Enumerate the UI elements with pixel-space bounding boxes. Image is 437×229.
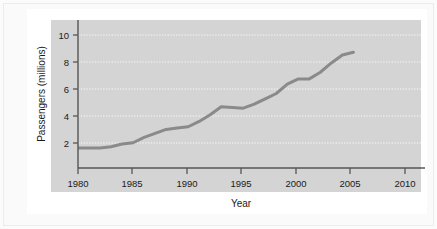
x-tick-label: 2000 (285, 178, 306, 189)
x-axis-title: Year (231, 198, 252, 209)
line-chart: 10 8 6 4 2 1980 1985 1990 1995 2000 2005… (0, 0, 437, 229)
x-tick-label: 1995 (230, 178, 251, 189)
x-tick-label: 2010 (394, 178, 415, 189)
figure-root: 10 8 6 4 2 1980 1985 1990 1995 2000 2005… (0, 0, 437, 229)
x-tick-label: 1990 (176, 178, 197, 189)
y-tick-label: 2 (64, 138, 69, 149)
plot-area (51, 20, 421, 192)
y-tick-label: 4 (64, 111, 69, 122)
y-tick-label: 6 (64, 84, 69, 95)
y-axis-title: Passengers (millions) (36, 46, 47, 142)
x-tick-label: 1985 (121, 178, 142, 189)
x-tick-label: 2005 (339, 178, 360, 189)
y-tick-label: 10 (58, 30, 69, 41)
x-tick-label: 1980 (67, 178, 88, 189)
y-tick-label: 8 (64, 57, 69, 68)
